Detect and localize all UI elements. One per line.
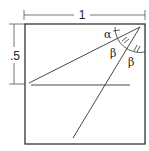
- top-dimension: 1: [24, 8, 145, 22]
- width-label: 1: [79, 8, 86, 22]
- alpha-label: α: [104, 28, 112, 41]
- square-outline: [25, 24, 145, 144]
- geometry-diagram: 1 .5 α β β: [0, 0, 149, 151]
- angle-arc: [115, 27, 145, 53]
- beta-label-2: β: [128, 56, 134, 69]
- height-label: .5: [10, 49, 20, 63]
- beta-label-1: β: [110, 47, 116, 60]
- left-dimension: .5: [9, 24, 25, 84]
